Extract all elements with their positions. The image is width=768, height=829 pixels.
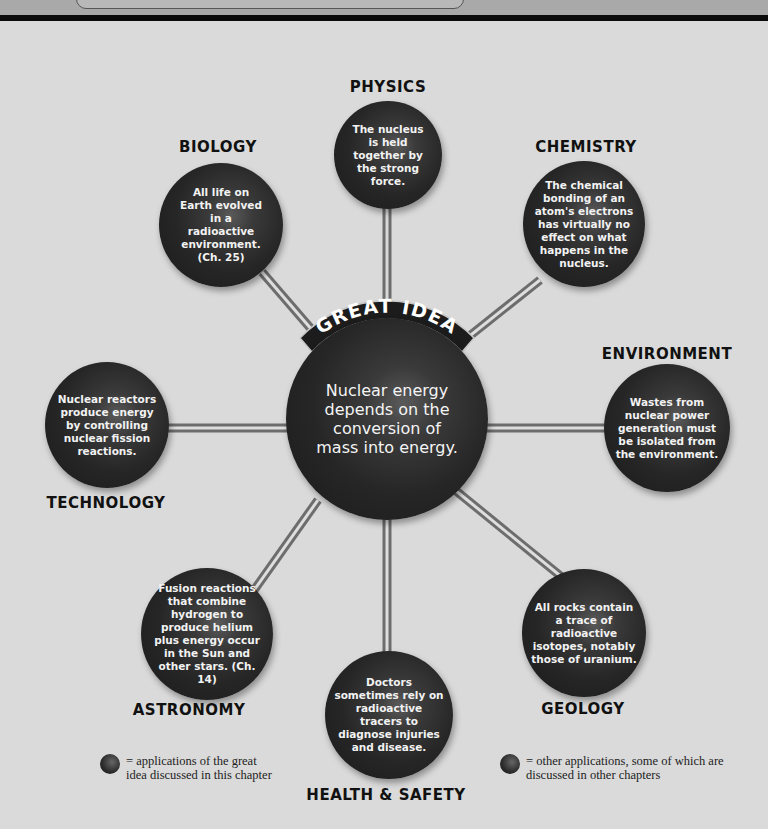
node-geology: All rocks contain a trace of radioactive… (522, 569, 646, 697)
sphere-icon (500, 754, 520, 774)
legend-this-chapter-text: = applications of the great idea discuss… (126, 754, 276, 782)
node-astronomy: Fusion reactions that combine hydrogen t… (141, 568, 273, 700)
node-environment-text: Wastes from nuclear power generation mus… (615, 396, 719, 461)
node-environment: Wastes from nuclear power generation mus… (604, 364, 730, 492)
label-physics: PHYSICS (350, 78, 426, 96)
great-idea-sphere: Nuclear energy depends on the conversion… (286, 318, 488, 520)
node-technology: Nuclear reactors produce energy by contr… (45, 362, 169, 488)
node-chemistry: The chemical bonding of an atom's electr… (523, 161, 645, 287)
legend-this-chapter: = applications of the great idea discuss… (100, 754, 276, 782)
node-health-safety-text: Doctors sometimes rely on radioactive tr… (334, 676, 444, 754)
label-health-safety: HEALTH & SAFETY (306, 786, 465, 804)
legend-other-chapters: = other applications, some of which are … (500, 754, 726, 782)
great-idea-text: Nuclear energy depends on the conversion… (312, 381, 462, 457)
legend-other-chapters-text: = other applications, some of which are … (526, 754, 726, 782)
label-astronomy: ASTRONOMY (133, 701, 246, 719)
label-environment: ENVIRONMENT (602, 345, 732, 363)
label-chemistry: CHEMISTRY (535, 138, 636, 156)
node-chemistry-text: The chemical bonding of an atom's electr… (527, 179, 641, 270)
label-geology: GEOLOGY (541, 700, 624, 718)
node-physics: The nucleus is held together by the stro… (334, 101, 442, 209)
node-geology-text: All rocks contain a trace of radioactive… (530, 601, 638, 666)
node-health-safety: Doctors sometimes rely on radioactive tr… (325, 651, 453, 779)
node-astronomy-text: Fusion reactions that combine hydrogen t… (151, 582, 263, 686)
node-biology: All life on Earth evolved in a radioacti… (159, 163, 283, 287)
node-technology-text: Nuclear reactors produce energy by contr… (57, 393, 157, 458)
sphere-icon (100, 754, 120, 774)
label-biology: BIOLOGY (179, 138, 257, 156)
node-physics-text: The nucleus is held together by the stro… (346, 123, 430, 188)
node-biology-text: All life on Earth evolved in a radioacti… (180, 186, 262, 264)
label-technology: TECHNOLOGY (47, 494, 166, 512)
